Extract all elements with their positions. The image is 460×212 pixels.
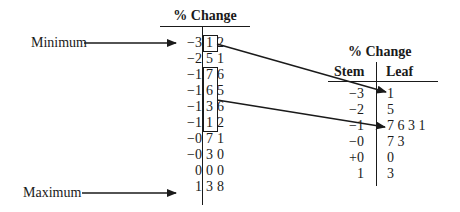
left-leaf: 0 xyxy=(217,163,224,179)
neg1-leaves-highlight-box xyxy=(203,67,218,132)
left-leaf: 5 xyxy=(206,51,213,67)
left-leaf: 1 xyxy=(217,51,224,67)
left-plot-title: % Change xyxy=(165,8,245,24)
left-leaf: 3 xyxy=(206,179,213,195)
right-stem: +0 xyxy=(320,150,364,166)
min-leaf-highlight-box xyxy=(203,35,218,52)
left-stem: −1 xyxy=(172,83,202,99)
left-leaf: 5 xyxy=(217,83,224,99)
left-leaf: 1 xyxy=(217,131,224,147)
left-leaf: 6 xyxy=(217,67,224,83)
leaf-header: Leaf xyxy=(386,64,413,80)
left-leaf: 6 xyxy=(217,99,224,115)
left-leaf: 2 xyxy=(217,115,224,131)
left-leaf: 0 xyxy=(206,163,213,179)
left-stem: −0 xyxy=(172,131,202,147)
left-leaf: 2 xyxy=(217,35,224,51)
right-plot-title: % Change xyxy=(348,44,411,60)
stem-header: Stem xyxy=(334,64,364,80)
right-leaf: 7 6 3 1 xyxy=(387,118,426,134)
left-stem: −1 xyxy=(172,67,202,83)
left-stem: 1 xyxy=(172,179,202,195)
right-leaf: 3 xyxy=(387,166,394,182)
left-leaf: 7 xyxy=(206,131,213,147)
left-stem: 0 xyxy=(172,163,202,179)
left-stem: −3 xyxy=(172,35,202,51)
maximum-label: Maximum xyxy=(23,185,81,201)
left-stem: −1 xyxy=(172,115,202,131)
left-stem: −0 xyxy=(172,147,202,163)
right-leaf: 5 xyxy=(387,102,394,118)
right-leaf: 1 xyxy=(387,86,394,102)
left-leaf: 3 xyxy=(206,147,213,163)
left-leaf: 0 xyxy=(217,147,224,163)
minimum-label: Minimum xyxy=(31,35,87,51)
left-stem: −1 xyxy=(172,99,202,115)
left-stem-leaf-body: −3 1 2 −2 5 1 −1 7 6 −1 6 5 −1 3 6 −1 1 … xyxy=(172,35,242,205)
right-stem: −0 xyxy=(320,134,364,150)
left-leaf: 8 xyxy=(217,179,224,195)
right-leaf: 0 xyxy=(387,150,394,166)
right-stem: −3 xyxy=(320,86,364,102)
right-stem: 1 xyxy=(320,166,364,182)
right-stem: −2 xyxy=(320,102,364,118)
right-leaf: 7 3 xyxy=(387,134,405,150)
right-stem-leaf-body: −3 1 −2 5 −1 7 6 3 1 −0 7 3 +0 0 1 3 xyxy=(320,86,460,186)
left-title-underline xyxy=(160,26,250,27)
right-header-underline xyxy=(328,81,438,82)
right-stem: −1 xyxy=(320,118,364,134)
left-stem: −2 xyxy=(172,51,202,67)
